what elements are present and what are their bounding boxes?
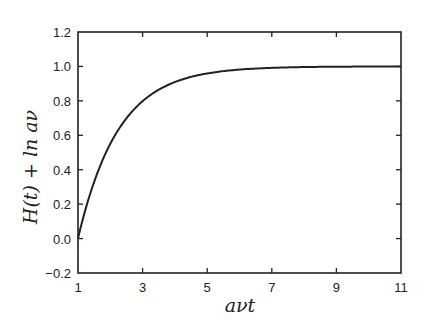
- y-tick-label: 0.2: [53, 197, 71, 212]
- y-tick-label: −0.2: [45, 266, 71, 281]
- y-tick-label: 0.8: [53, 94, 71, 109]
- x-tick-label: 9: [333, 280, 340, 295]
- y-axis-label: H(t) + ln aν: [19, 109, 41, 225]
- x-tick-label: 7: [268, 280, 275, 295]
- axis-ticks: [78, 32, 401, 273]
- y-tick-label: 0.4: [53, 163, 71, 178]
- tick-labels: 1357911−0.20.00.20.40.60.81.01.2: [45, 25, 407, 295]
- x-tick-label: 11: [394, 280, 408, 295]
- data-curve: [78, 66, 401, 238]
- x-axis-label: aνt: [225, 294, 256, 316]
- axes-box: [78, 32, 401, 273]
- y-tick-label: 1.2: [53, 25, 71, 40]
- x-tick-label: 1: [74, 280, 81, 295]
- x-tick-label: 5: [204, 280, 211, 295]
- x-tick-label: 3: [139, 280, 146, 295]
- y-tick-label: 0.0: [53, 232, 71, 247]
- y-tick-label: 1.0: [53, 59, 71, 74]
- y-tick-label: 0.6: [53, 128, 71, 143]
- line-chart: 1357911−0.20.00.20.40.60.81.01.2 aνt H(t…: [0, 0, 433, 329]
- plot-frame: [78, 32, 401, 273]
